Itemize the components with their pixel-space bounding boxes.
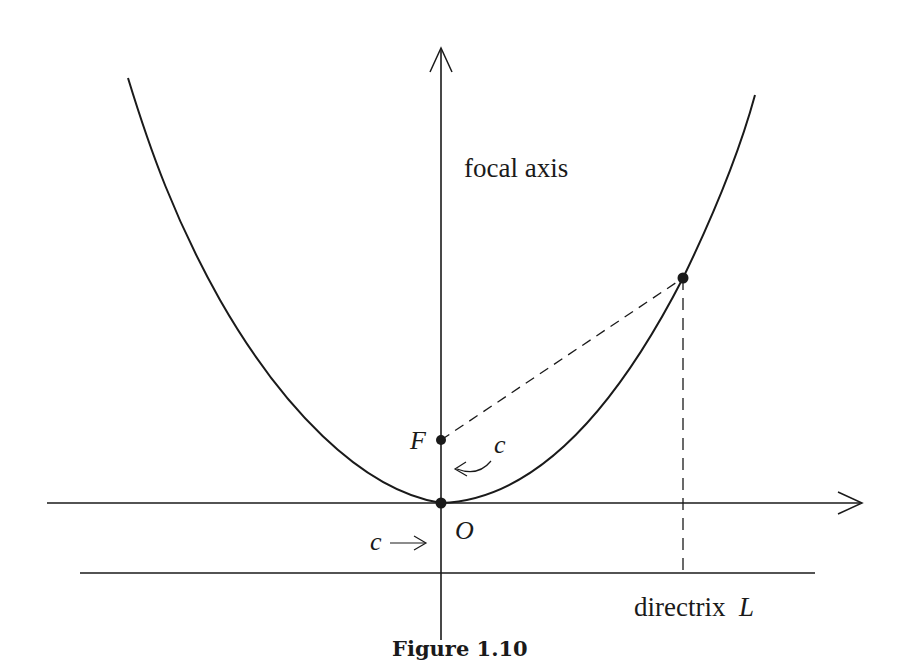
directrix-symbol: L (739, 592, 754, 622)
origin-point (436, 498, 447, 509)
focus-label: F (410, 428, 426, 454)
focal-axis-label: focal axis (464, 155, 568, 182)
directrix-label: directrix L (634, 594, 754, 621)
figure-caption: Figure 1.10 (392, 638, 528, 659)
focus-point (436, 435, 446, 445)
directrix-word: directrix (634, 592, 725, 622)
focus-to-point-dashed-line (441, 278, 683, 440)
lower-distance-label: c (370, 529, 382, 555)
parabola-figure: focal axis F c O c directrix L Figure 1.… (0, 0, 915, 668)
upper-distance-label: c (494, 432, 506, 458)
parabola-point (678, 273, 689, 284)
origin-label: O (455, 518, 474, 544)
upper-c-arrowhead-icon (455, 462, 467, 476)
diagram-canvas (0, 0, 915, 668)
upper-c-arrow-icon (457, 461, 491, 472)
